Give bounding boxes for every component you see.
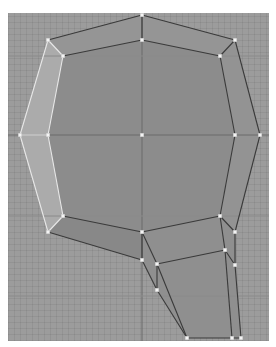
- mesh-vertex[interactable]: [140, 38, 144, 42]
- mesh-vertex[interactable]: [46, 230, 50, 234]
- mesh-vertex[interactable]: [18, 133, 22, 137]
- mesh-vertex[interactable]: [46, 38, 50, 42]
- mesh-vertex[interactable]: [155, 262, 159, 266]
- mesh-wireframe[interactable]: [0, 0, 276, 347]
- mesh-vertex[interactable]: [140, 13, 144, 17]
- mesh-vertex[interactable]: [140, 230, 144, 234]
- mesh-vertex[interactable]: [233, 263, 237, 267]
- mesh-vertex[interactable]: [230, 336, 234, 340]
- mesh-vertex[interactable]: [233, 230, 237, 234]
- mesh-vertex[interactable]: [61, 54, 65, 58]
- mesh-vertex[interactable]: [239, 336, 243, 340]
- mesh-vertex[interactable]: [140, 258, 144, 262]
- mesh-vertex[interactable]: [140, 133, 144, 137]
- mesh-vertex[interactable]: [233, 133, 237, 137]
- mesh-vertex[interactable]: [218, 214, 222, 218]
- mesh-vertex[interactable]: [218, 54, 222, 58]
- mesh-vertex[interactable]: [155, 288, 159, 292]
- mesh-vertex[interactable]: [223, 248, 227, 252]
- mesh-vertex[interactable]: [233, 38, 237, 42]
- mesh-vertex[interactable]: [258, 133, 262, 137]
- mesh-vertex[interactable]: [61, 214, 65, 218]
- mesh-vertex[interactable]: [46, 133, 50, 137]
- mesh-vertex[interactable]: [185, 336, 189, 340]
